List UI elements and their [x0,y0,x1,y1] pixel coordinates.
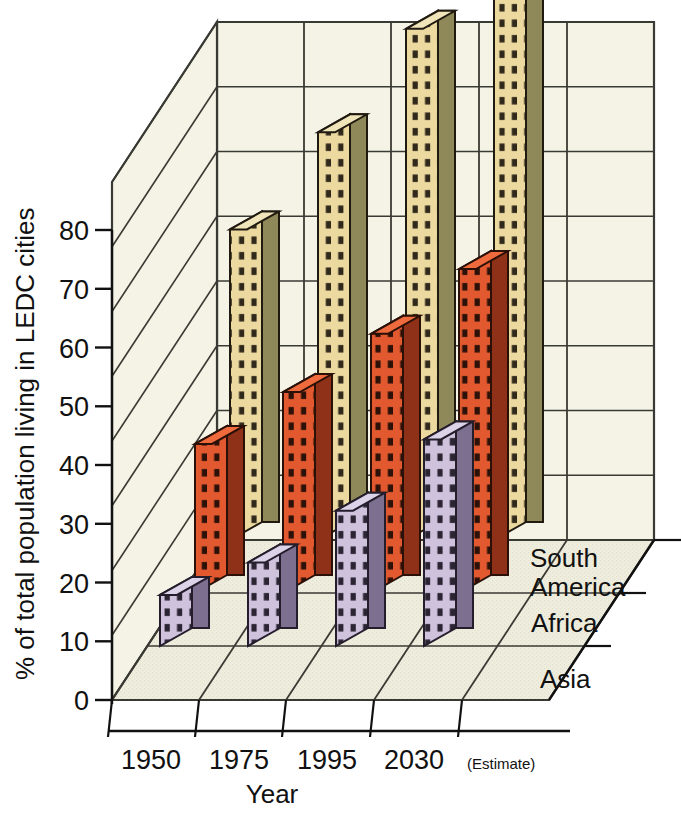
y-tick-label: 40 [59,451,89,481]
y-tick-label: 80 [59,216,89,246]
y-tick-label: 20 [59,569,89,599]
x-axis-title: Year [246,779,299,809]
x-axis-estimate-note: (Estimate) [467,755,535,772]
bar-asia-2030[interactable] [424,421,473,646]
y-axis-tick-labels: 80 70 60 50 40 30 20 10 0 [59,216,89,716]
x-tick-label-2030: 2030 [384,745,444,775]
x-tick-label-1995: 1995 [297,745,357,775]
y-axis-ticks [95,230,112,700]
series-label-south-america-line2: America [530,572,626,602]
x-axis-tick-labels: 1950 1975 1995 2030 (Estimate) [121,745,535,775]
y-tick-label: 30 [59,510,89,540]
chart-canvas: 80 70 60 50 40 30 20 10 0 % of total pop… [0,0,681,815]
y-tick-label: 50 [59,392,89,422]
y-axis-title: % of total population living in LEDC cit… [10,207,40,680]
series-label-africa: Africa [531,608,598,638]
y-tick-label: 60 [59,334,89,364]
x-tick-label-1975: 1975 [209,745,269,775]
series-label-south-america-line1: South [530,543,598,573]
x-tick-label-1950: 1950 [121,745,181,775]
y-tick-label: 70 [59,275,89,305]
three-d-bar-chart: 80 70 60 50 40 30 20 10 0 % of total pop… [0,0,681,815]
bar-africa-1950[interactable] [195,426,244,593]
series-label-asia: Asia [540,664,591,694]
bar-asia-1995[interactable] [336,493,385,646]
y-tick-label: 0 [74,686,89,716]
y-tick-label: 10 [59,627,89,657]
